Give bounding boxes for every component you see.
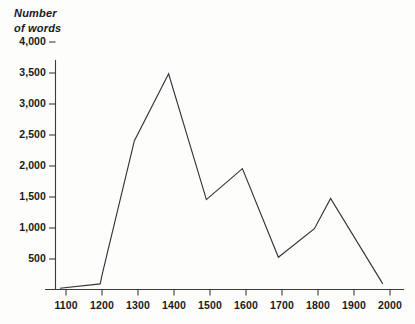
y-axis-tick-label: 1,500 xyxy=(19,190,46,202)
x-axis-tick-label: 1500 xyxy=(198,299,222,311)
y-axis-tick-label: 500 xyxy=(28,252,46,264)
x-axis-tick-label: 1100 xyxy=(54,299,77,311)
y-axis-tick-label: 2,500 xyxy=(19,128,46,140)
y-axis-tick-mark-group xyxy=(49,42,56,259)
x-axis-tick-mark-group xyxy=(66,290,390,296)
x-axis-tick-label: 1600 xyxy=(234,299,258,311)
y-axis-tick-label: 3,000 xyxy=(19,97,46,109)
x-axis-tick-label-group: 1100120013001400150016001700180019002000 xyxy=(54,299,402,311)
x-axis-tick-label: 2000 xyxy=(378,299,402,311)
y-axis-tick-label: 2,000 xyxy=(19,159,46,171)
x-axis-tick-label: 1200 xyxy=(90,299,114,311)
data-series-line xyxy=(60,74,383,289)
y-axis-tick-label: 4,000 xyxy=(19,35,46,47)
x-axis-tick-label: 1400 xyxy=(162,299,186,311)
line-chart: Number of words 4,0003,5003,0002,5002,00… xyxy=(0,0,415,324)
y-axis-tick-label-group: 4,0003,5003,0002,5002,0001,5001,000500 xyxy=(19,35,46,264)
y-axis-tick-label: 1,000 xyxy=(19,221,46,233)
chart-plot-area: 4,0003,5003,0002,5002,0001,5001,000500 1… xyxy=(0,0,415,324)
y-axis-tick-label: 3,500 xyxy=(19,66,46,78)
x-axis-tick-label: 1900 xyxy=(342,299,366,311)
x-axis-tick-label: 1300 xyxy=(126,299,150,311)
x-axis-tick-label: 1800 xyxy=(306,299,330,311)
x-axis-tick-label: 1700 xyxy=(270,299,294,311)
